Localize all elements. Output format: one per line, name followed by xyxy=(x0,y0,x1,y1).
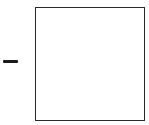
panel-content xyxy=(36,8,144,120)
empty-panel xyxy=(35,7,145,121)
minus-icon xyxy=(3,60,18,63)
minus-button[interactable] xyxy=(1,56,19,66)
